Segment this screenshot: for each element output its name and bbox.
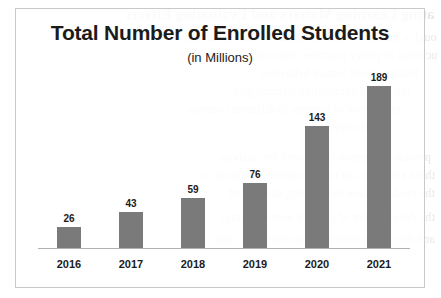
x-axis-tick-label: 2020 (286, 255, 348, 273)
bar[interactable] (305, 126, 329, 249)
bar-value-label: 43 (125, 199, 136, 209)
chart-subtitle: (in Millions) (16, 50, 424, 65)
bar-group: 76 (224, 71, 286, 249)
x-axis-tick-label: 2019 (224, 255, 286, 273)
bar[interactable] (119, 212, 143, 249)
chart-frame: Total Number of Enrolled Students (in Mi… (15, 8, 425, 288)
bar-group: 59 (162, 71, 224, 249)
x-axis-tick-label: 2017 (100, 255, 162, 273)
bar-value-label: 59 (187, 185, 198, 195)
bar[interactable] (181, 198, 205, 249)
x-axis-tick-label: 2021 (348, 255, 410, 273)
x-axis-labels: 2016 2017 2018 2019 2020 2021 (38, 255, 410, 273)
bar-group: 43 (100, 71, 162, 249)
bar[interactable] (243, 183, 267, 249)
x-axis-tick-label: 2018 (162, 255, 224, 273)
x-axis-line (38, 248, 410, 249)
x-axis-tick-label: 2016 (38, 255, 100, 273)
bar-value-label: 76 (249, 170, 260, 180)
bar-group: 26 (38, 71, 100, 249)
bar-value-label: 143 (309, 113, 326, 123)
bar-group: 189 (348, 71, 410, 249)
bar-group: 143 (286, 71, 348, 249)
bar[interactable] (367, 86, 391, 249)
bar-series: 26 43 59 76 143 189 (38, 71, 410, 249)
bar[interactable] (57, 227, 81, 249)
plot-area: 26 43 59 76 143 189 (38, 71, 410, 249)
bar-value-label: 189 (371, 73, 388, 83)
bar-value-label: 26 (63, 214, 74, 224)
chart-title: Total Number of Enrolled Students (16, 21, 424, 45)
